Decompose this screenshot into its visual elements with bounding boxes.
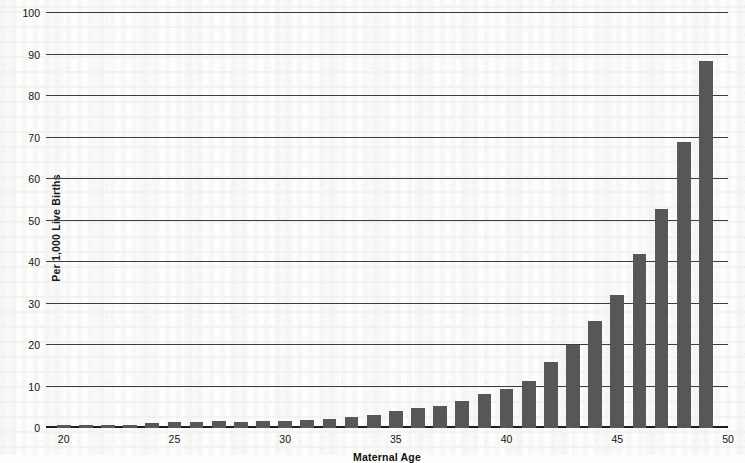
bar-age-24 [145, 423, 159, 428]
bar-age-41 [522, 381, 536, 428]
bar-age-45 [610, 295, 624, 428]
x-tick-label: 20 [58, 433, 70, 445]
y-tick-label: 100 [22, 7, 40, 19]
bar-age-34 [367, 415, 381, 428]
plot-area: 0102030405060708090100 20253035404550 Ma… [46, 13, 728, 428]
bar-age-35 [389, 411, 403, 428]
bar-series [46, 13, 728, 428]
bar-age-46 [633, 254, 647, 428]
x-tick-label: 25 [169, 433, 181, 445]
y-tick-label: 40 [28, 256, 40, 268]
y-tick-label: 70 [28, 132, 40, 144]
bar-age-44 [588, 321, 602, 428]
x-tick-label: 30 [279, 433, 291, 445]
bar-age-23 [123, 425, 137, 428]
y-tick-label: 10 [28, 381, 40, 393]
bar-age-37 [433, 406, 447, 428]
y-tick-label: 60 [28, 173, 40, 185]
bar-age-42 [544, 362, 558, 428]
x-tick-label: 35 [390, 433, 402, 445]
bar-age-27 [212, 421, 226, 428]
bar-age-40 [500, 389, 514, 428]
y-tick-label: 90 [28, 49, 40, 61]
bar-age-26 [190, 422, 204, 428]
bar-age-32 [323, 419, 337, 428]
bar-age-48 [677, 142, 691, 428]
x-tick-label: 40 [501, 433, 513, 445]
bar-age-22 [101, 425, 115, 428]
y-tick-label: 50 [28, 215, 40, 227]
x-axis-title: Maternal Age [353, 451, 421, 463]
bar-age-28 [234, 422, 248, 428]
y-tick-label: 30 [28, 298, 40, 310]
x-tick-label: 45 [611, 433, 623, 445]
bar-age-20 [57, 425, 71, 428]
bar-age-25 [168, 422, 182, 428]
bar-age-38 [455, 401, 469, 428]
y-tick-label: 0 [34, 422, 40, 434]
bar-age-39 [478, 394, 492, 428]
bar-age-30 [278, 421, 292, 428]
bar-age-33 [345, 417, 359, 428]
y-tick-label: 20 [28, 339, 40, 351]
bar-age-43 [566, 345, 580, 428]
bar-age-36 [411, 408, 425, 428]
bar-age-31 [300, 420, 314, 428]
bar-age-21 [79, 425, 93, 428]
bar-age-47 [655, 209, 669, 428]
bar-age-29 [256, 421, 270, 428]
bar-age-49 [699, 61, 713, 428]
y-tick-label: 80 [28, 90, 40, 102]
x-tick-label: 50 [722, 433, 734, 445]
